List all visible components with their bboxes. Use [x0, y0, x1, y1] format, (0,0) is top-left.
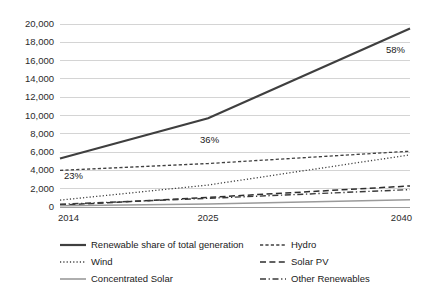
legend-item[interactable]: Hydro [260, 239, 420, 250]
x-axis-tick-label: 2025 [188, 213, 228, 223]
y-axis-tick-label: 12,000 [0, 92, 54, 102]
legend-item[interactable]: Renewable share of total generation [60, 239, 260, 250]
y-axis-tick-label: 18,000 [0, 37, 54, 47]
legend-label: Wind [91, 256, 113, 267]
y-axis-tick-label: 16,000 [0, 56, 54, 66]
legend-label: Hydro [291, 239, 316, 250]
data-point-label: 23% [64, 171, 83, 181]
legend-label: Concentrated Solar [91, 273, 173, 284]
y-axis-tick-label: 0 [0, 202, 54, 212]
y-axis-tick-label: 14,000 [0, 74, 54, 84]
series-line [60, 29, 410, 159]
legend-label: Other Renewables [291, 273, 370, 284]
x-axis-tick-label: 2040 [372, 213, 412, 223]
data-point-label: 36% [200, 135, 219, 145]
legend-swatch-icon [260, 257, 286, 267]
chart-legend: Renewable share of total generationHydro… [60, 236, 420, 287]
y-axis-tick-label: 10,000 [0, 111, 54, 121]
legend-label: Renewable share of total generation [91, 239, 244, 250]
y-axis-tick-label: 2,000 [0, 184, 54, 194]
data-point-label: 58% [386, 45, 405, 55]
legend-swatch-icon [60, 240, 86, 250]
legend-item[interactable]: Solar PV [260, 256, 420, 267]
legend-label: Solar PV [291, 256, 329, 267]
y-axis-tick-label: 8,000 [0, 129, 54, 139]
series-line [60, 190, 410, 205]
legend-swatch-icon [260, 240, 286, 250]
x-axis-tick-label: 2014 [58, 213, 98, 223]
series-line [60, 151, 410, 170]
legend-item[interactable]: Concentrated Solar [60, 273, 260, 284]
legend-swatch-icon [60, 274, 86, 284]
y-axis-tick-label: 6,000 [0, 147, 54, 157]
data-series-group [60, 29, 410, 206]
legend-swatch-icon [60, 257, 86, 267]
legend-swatch-icon [260, 274, 286, 284]
y-axis-tick-label: 20,000 [0, 19, 54, 29]
legend-item[interactable]: Other Renewables [260, 273, 420, 284]
chart-container: 02,0004,0006,0008,00010,00012,00014,0001… [0, 0, 434, 292]
legend-item[interactable]: Wind [60, 256, 260, 267]
y-axis-tick-label: 4,000 [0, 165, 54, 175]
